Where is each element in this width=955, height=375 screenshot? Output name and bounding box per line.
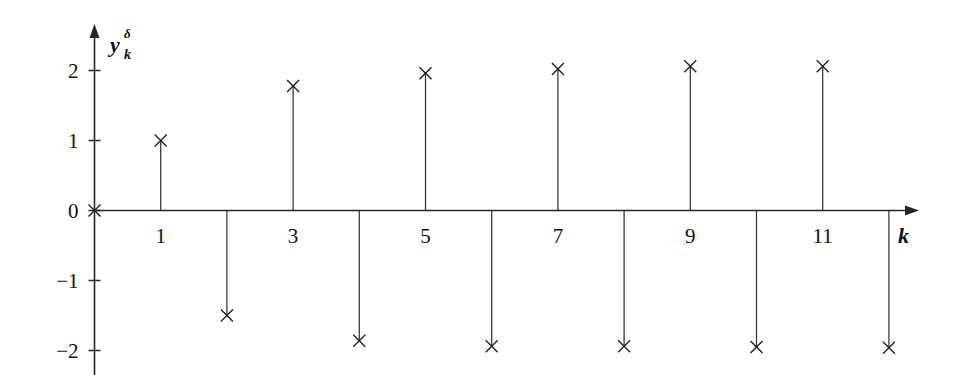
- y-axis-label-subscript: k: [124, 47, 131, 62]
- y-axis: [90, 24, 100, 375]
- x-tick-label: 11: [813, 224, 833, 248]
- y-tick-label: −2: [56, 339, 78, 363]
- x-axis-arrowhead: [905, 206, 919, 216]
- y-axis-label: y k δ: [107, 26, 131, 62]
- x-axis: [94, 206, 919, 216]
- stem-series: [161, 66, 889, 347]
- x-tick-label: 9: [685, 224, 696, 248]
- stem-plot-figure: 210−1−2 1357911 y k δ k: [0, 0, 955, 375]
- y-tick-label: 1: [68, 129, 79, 153]
- x-axis-label: k: [898, 223, 909, 248]
- y-axis-label-superscript: δ: [124, 26, 131, 41]
- x-axis-tick-labels: 1357911: [155, 224, 832, 248]
- plot-canvas: 210−1−2 1357911 y k δ k: [0, 0, 955, 375]
- x-tick-label: 7: [553, 224, 564, 248]
- x-tick-label: 5: [420, 224, 431, 248]
- x-tick-label: 1: [155, 224, 166, 248]
- x-tick-label: 3: [288, 224, 299, 248]
- y-axis-arrowhead: [90, 24, 100, 38]
- y-tick-label: 0: [68, 199, 79, 223]
- y-axis-label-base: y: [107, 32, 120, 57]
- y-tick-label: −1: [56, 269, 78, 293]
- y-tick-label: 2: [68, 59, 79, 83]
